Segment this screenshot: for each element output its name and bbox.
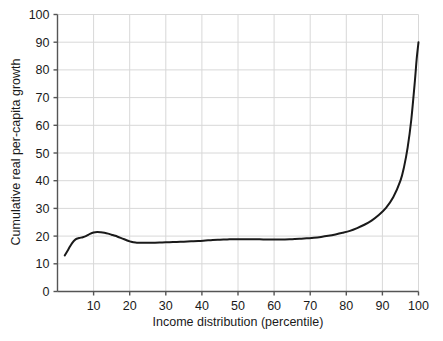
x-axis-title: Income distribution (percentile) xyxy=(153,315,324,329)
chart-container: 0102030405060708090100102030405060708090… xyxy=(0,0,443,341)
x-tick-label: 60 xyxy=(267,299,281,313)
y-tick-label: 0 xyxy=(43,285,50,299)
y-tick-label: 60 xyxy=(36,119,50,133)
y-axis-title: Cumulative real per-capita growth xyxy=(9,59,23,246)
y-tick-label: 100 xyxy=(29,8,50,22)
x-tick-label: 100 xyxy=(408,299,429,313)
y-tick-label: 10 xyxy=(36,257,50,271)
y-tick-label: 90 xyxy=(36,36,50,50)
y-tick-label: 80 xyxy=(36,63,50,77)
y-tick-label: 20 xyxy=(36,230,50,244)
x-tick-label: 30 xyxy=(159,299,173,313)
x-tick-label: 70 xyxy=(303,299,317,313)
x-tick-label: 50 xyxy=(231,299,245,313)
y-tick-label: 50 xyxy=(36,147,50,161)
line-chart: 0102030405060708090100102030405060708090… xyxy=(0,0,443,341)
y-tick-label: 30 xyxy=(36,202,50,216)
y-tick-label: 70 xyxy=(36,91,50,105)
chart-background xyxy=(0,0,443,341)
x-tick-label: 10 xyxy=(87,299,101,313)
y-tick-label: 40 xyxy=(36,174,50,188)
x-tick-label: 20 xyxy=(123,299,137,313)
x-tick-label: 80 xyxy=(339,299,353,313)
x-tick-label: 90 xyxy=(375,299,389,313)
x-tick-label: 40 xyxy=(195,299,209,313)
